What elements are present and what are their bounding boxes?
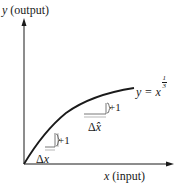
- exponent-denominator: 3: [163, 82, 167, 90]
- y-axis-text: (output): [7, 3, 49, 17]
- exponent-numerator: 1: [163, 74, 167, 82]
- upper-run-label: Δx̂: [88, 121, 101, 133]
- function-diagram: y (output) x (input) y = x13 +1 Δx̂ +1 Δ…: [0, 0, 180, 186]
- x-axis-text: (input): [109, 169, 145, 183]
- lower-run-label: Δx: [36, 153, 49, 165]
- upper-rise-label: +1: [109, 102, 121, 113]
- upper-run-variable: x̂: [96, 120, 101, 134]
- y-axis-label: y (output): [2, 4, 49, 16]
- y-axis-arrow-icon: [22, 18, 27, 26]
- x-axis-arrow-icon: [166, 162, 174, 167]
- lower-slope-triangle: [45, 133, 58, 150]
- upper-slope-triangle: [84, 103, 106, 117]
- curve-equation-exponent: 13: [162, 75, 167, 90]
- curve-equation-label: y = x13: [136, 83, 167, 98]
- curve-equation-base: y = x: [136, 85, 161, 99]
- lower-run-delta: Δ: [36, 152, 44, 166]
- lower-run-variable: x: [44, 152, 49, 166]
- upper-run-delta: Δ: [88, 120, 96, 134]
- x-axis-label: x (input): [104, 170, 145, 182]
- lower-rise-label: +1: [58, 135, 70, 146]
